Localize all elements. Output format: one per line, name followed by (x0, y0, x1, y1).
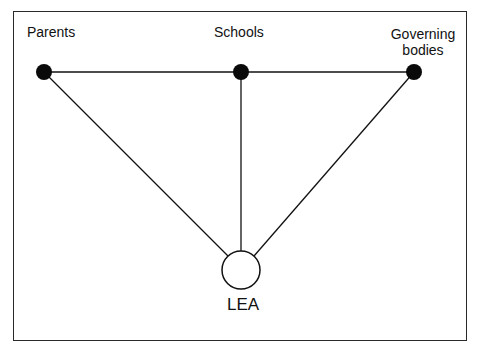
label-governing-bodies: Governing bodies (378, 26, 468, 58)
label-governing-bodies-line1: Governing (378, 26, 468, 42)
node-lea-circle (222, 251, 260, 289)
edge-parents-lea (44, 72, 228, 256)
label-lea: LEA (223, 296, 263, 314)
node-parents-dot (36, 64, 52, 80)
label-parents: Parents (27, 24, 75, 40)
label-schools: Schools (214, 24, 264, 40)
edge-governing-bodies-lea (254, 72, 414, 256)
node-schools-dot (233, 64, 249, 80)
node-governing-bodies-dot (406, 64, 422, 80)
label-governing-bodies-line2: bodies (378, 42, 468, 58)
